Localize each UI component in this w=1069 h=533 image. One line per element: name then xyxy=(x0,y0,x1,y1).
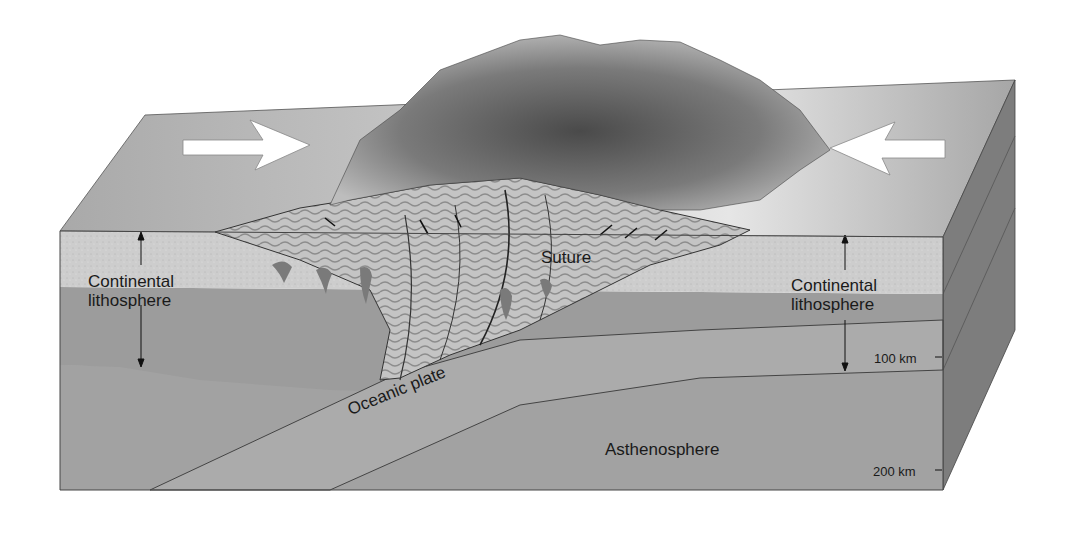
right-lithosphere-line2: lithosphere xyxy=(791,295,877,314)
depth-100-label: 100 km xyxy=(874,349,917,368)
left-lithosphere-label: Continental lithosphere xyxy=(88,272,174,310)
right-lithosphere-label: Continental lithosphere xyxy=(791,276,877,314)
asthenosphere-label: Asthenosphere xyxy=(605,440,719,459)
mountain-range xyxy=(330,35,830,210)
suture-label: Suture xyxy=(541,248,591,267)
left-lithosphere-line2: lithosphere xyxy=(88,291,174,310)
block-diagram xyxy=(0,0,1069,533)
depth-200-label: 200 km xyxy=(873,462,916,481)
right-lithosphere-line1: Continental xyxy=(791,276,877,295)
left-lithosphere-line1: Continental xyxy=(88,272,174,291)
